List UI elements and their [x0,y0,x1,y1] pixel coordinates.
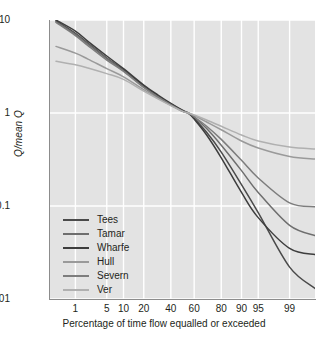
legend-swatch-ver [63,289,89,291]
x-tick-label: 99 [278,303,302,314]
legend-swatch-severn [63,275,89,277]
curve-tamar [56,22,315,236]
curve-hull [56,46,315,159]
y-axis-title: Q/mean Q [13,94,24,174]
legend-swatch-tamar [63,233,89,235]
legend-item-severn[interactable]: Severn [63,269,129,283]
legend-item-ver[interactable]: Ver [63,283,129,297]
legend-label: Wharfe [97,243,129,253]
legend-label: Severn [97,271,129,281]
x-tick-label: 95 [246,303,270,314]
legend-item-tees[interactable]: Tees [63,213,129,227]
legend-label: Ver [97,285,112,295]
x-tick-label: 40 [159,303,183,314]
x-tick-label: 20 [132,303,156,314]
legend-label: Tees [97,215,118,225]
legend-swatch-wharfe [63,247,89,249]
y-tick-label: 0.1 [0,201,10,211]
chart-legend: TeesTamarWharfeHullSevernVer [63,213,129,297]
legend-swatch-hull [63,261,89,263]
legend-item-wharfe[interactable]: Wharfe [63,241,129,255]
x-axis-line [49,299,316,300]
x-tick-label: 60 [182,303,206,314]
y-tick-label: 1 [4,108,10,118]
y-tick-label: 10 [0,15,10,25]
legend-label: Hull [97,257,114,267]
curve-severn [56,23,315,207]
legend-item-hull[interactable]: Hull [63,255,129,269]
legend-swatch-tees [63,219,89,221]
y-tick-label: 0.01 [0,294,10,304]
flow-duration-curve-figure: Q/mean Q 1010.10.01 151020406080909599 P… [0,0,328,344]
legend-item-tamar[interactable]: Tamar [63,227,129,241]
curve-ver [56,61,315,149]
legend-label: Tamar [97,229,125,239]
x-axis-title: Percentage of time flow equalled or exce… [0,318,328,329]
x-tick-label: 1 [63,303,87,314]
